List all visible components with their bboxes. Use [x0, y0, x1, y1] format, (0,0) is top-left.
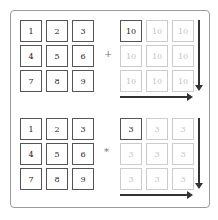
broadcast-cell: 3: [120, 143, 142, 165]
vertical-broadcast-arrow-icon: [198, 20, 200, 86]
broadcast-cell: 10: [146, 45, 168, 67]
left-matrix-cell: 1: [20, 20, 42, 42]
left-matrix-cell: 6: [72, 143, 94, 165]
horizontal-broadcast-arrow-icon: [120, 194, 188, 196]
broadcast-cell: 10: [120, 70, 142, 92]
left-matrix-cell: 4: [20, 143, 42, 165]
left-matrix-cell: 2: [46, 118, 68, 140]
broadcast-cell: 3: [172, 143, 194, 165]
left-matrix-cell: 3: [72, 20, 94, 42]
vertical-broadcast-arrow-icon: [198, 118, 200, 184]
left-matrix-cell: 6: [72, 45, 94, 67]
left-matrix-cell: 8: [46, 168, 68, 190]
multiply-operator: *: [104, 146, 109, 157]
left-matrix-cell: 1: [20, 118, 42, 140]
broadcast-cell: 3: [146, 118, 168, 140]
broadcast-cell: 10: [172, 45, 194, 67]
plus-operator: +: [104, 48, 112, 59]
left-matrix-cell: 7: [20, 168, 42, 190]
left-matrix-cell: 2: [46, 20, 68, 42]
broadcast-cell: 3: [172, 118, 194, 140]
left-matrix-cell: 9: [72, 70, 94, 92]
left-matrix-cell: 9: [72, 168, 94, 190]
left-matrix-cell: 5: [46, 143, 68, 165]
broadcast-cell: 10: [172, 70, 194, 92]
scalar-cell: 10: [120, 20, 142, 42]
broadcast-cell: 3: [146, 143, 168, 165]
left-matrix-cell: 4: [20, 45, 42, 67]
horizontal-broadcast-arrow-icon: [120, 96, 188, 98]
broadcast-cell: 3: [120, 168, 142, 190]
broadcast-cell: 10: [172, 20, 194, 42]
scalar-cell: 3: [120, 118, 142, 140]
broadcast-cell: 10: [120, 45, 142, 67]
broadcast-cell: 3: [146, 168, 168, 190]
left-matrix-cell: 5: [46, 45, 68, 67]
left-matrix-cell: 3: [72, 118, 94, 140]
left-matrix-cell: 7: [20, 70, 42, 92]
broadcast-cell: 3: [172, 168, 194, 190]
broadcast-cell: 10: [146, 20, 168, 42]
left-matrix-cell: 8: [46, 70, 68, 92]
broadcast-cell: 10: [146, 70, 168, 92]
